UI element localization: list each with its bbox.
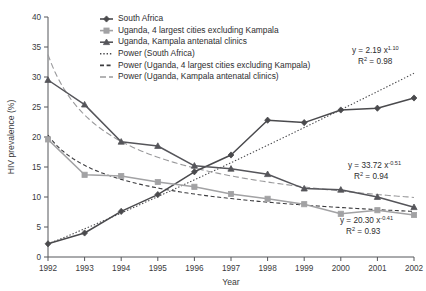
data-point-diamond	[82, 230, 88, 236]
x-tick-label: 2000	[332, 264, 351, 273]
data-point-square	[82, 172, 87, 177]
data-point-square	[302, 202, 307, 207]
x-tick-label: 1998	[258, 264, 277, 273]
annot-four-cities: y = 20.30 x-0.41R2 = 0.93	[340, 215, 393, 236]
y-tick-label: 15	[32, 163, 42, 172]
y-tick-label: 20	[32, 133, 42, 142]
y-axis-title: HIV prevalence (%)	[6, 100, 16, 175]
x-tick-label: 1994	[112, 264, 131, 273]
data-point-square	[119, 173, 124, 178]
legend-item[interactable]: Uganda, Kampala antenatal clinics	[100, 36, 247, 46]
data-point-diamond	[155, 192, 161, 198]
data-point-square	[375, 208, 380, 213]
legend-item[interactable]: Uganda, 4 largest cities excluding Kampa…	[100, 25, 279, 35]
data-point-diamond	[375, 105, 381, 111]
data-point-square	[155, 179, 160, 184]
annot-south-africa: y = 2.19 x1.10R2 = 0.98	[352, 45, 399, 66]
chart-annotations: y = 2.19 x1.10R2 = 0.98y = 33.72 x-0.51R…	[340, 45, 401, 236]
data-point-square	[104, 28, 109, 33]
x-axis-title: Year	[222, 277, 240, 287]
legend-label: Power (Uganda, Kampala antenatal clinics…	[118, 71, 279, 81]
y-tick-label: 5	[36, 223, 41, 232]
data-point-square	[45, 137, 50, 142]
x-tick-label: 1996	[185, 264, 204, 273]
annotation-r-squared: R2 = 0.98	[358, 56, 393, 66]
data-point-diamond	[338, 107, 344, 113]
y-tick-label: 25	[32, 103, 42, 112]
y-tick-label: 30	[32, 73, 42, 82]
y-tick-label: 0	[36, 253, 41, 262]
legend-label: South Africa	[118, 13, 164, 23]
legend-item[interactable]: Power (South Africa)	[100, 48, 195, 58]
data-point-triangle	[45, 77, 51, 83]
y-tick-label: 35	[32, 43, 42, 52]
legend-item[interactable]: Power (Uganda, Kampala antenatal clinics…	[100, 71, 279, 81]
annotation-equation: y = 2.19 x1.10	[352, 45, 399, 55]
x-tick-label: 1992	[39, 264, 58, 273]
data-point-square	[192, 184, 197, 189]
y-tick-label: 40	[32, 13, 42, 22]
legend-item[interactable]: Power (Uganda, 4 largest cities excludin…	[100, 60, 310, 70]
data-point-square	[265, 196, 270, 201]
hiv-prevalence-chart: 0510152025303540 19921993199419951996199…	[0, 0, 426, 291]
y-tick-label: 10	[32, 193, 42, 202]
legend-label: Uganda, Kampala antenatal clinics	[118, 36, 247, 46]
series-group	[45, 77, 417, 210]
data-point-diamond	[118, 208, 124, 214]
data-point-diamond	[411, 95, 417, 101]
data-point-diamond	[192, 169, 198, 175]
chart-legend: South AfricaUganda, 4 largest cities exc…	[100, 13, 310, 81]
legend-label: Power (South Africa)	[118, 48, 195, 58]
x-tick-label: 1999	[295, 264, 314, 273]
x-tick-label: 1997	[222, 264, 241, 273]
legend-item[interactable]: South Africa	[100, 13, 164, 23]
legend-label: Power (Uganda, 4 largest cities excludin…	[118, 60, 310, 70]
series-line	[48, 80, 414, 207]
x-tick-label: 1995	[149, 264, 168, 273]
data-point-diamond	[104, 16, 110, 22]
data-point-square	[228, 191, 233, 196]
chart-canvas: 0510152025303540 19921993199419951996199…	[0, 0, 426, 291]
series-group	[45, 137, 416, 218]
data-point-diamond	[301, 120, 307, 126]
x-tick-label: 1993	[75, 264, 94, 273]
data-point-square	[411, 212, 416, 217]
x-tick-label: 2001	[368, 264, 387, 273]
data-point-diamond	[45, 241, 51, 247]
x-axis-ticks: 1992199319941995199619971998199920002001…	[39, 257, 424, 273]
x-tick-label: 2002	[405, 264, 424, 273]
legend-label: Uganda, 4 largest cities excluding Kampa…	[118, 25, 279, 35]
annot-kampala: y = 33.72 x-0.51R2 = 0.94	[348, 160, 401, 181]
annotation-equation: y = 20.30 x-0.41	[340, 215, 393, 225]
annotation-r-squared: R2 = 0.94	[354, 171, 389, 181]
annotation-equation: y = 33.72 x-0.51	[348, 160, 401, 170]
annotation-r-squared: R2 = 0.93	[346, 226, 381, 236]
